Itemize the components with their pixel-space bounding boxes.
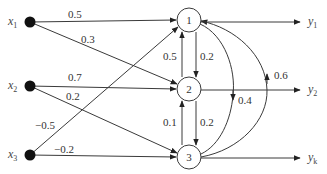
- edge-n1-n3: [200, 24, 233, 154]
- edge-x2-n2: [30, 86, 176, 89]
- output-label-y2: y2: [307, 82, 317, 98]
- weight-x1-n1: 0.5: [68, 8, 82, 20]
- edge-x3-n3: [30, 155, 176, 157]
- input-label-x2: x2: [7, 78, 17, 94]
- input-node-x2: [25, 81, 36, 92]
- neuron-2: 2: [177, 77, 201, 101]
- edge-x1-n1: [30, 20, 176, 22]
- weight-x2-n2: 0.7: [68, 71, 82, 83]
- output-label-yk: yk: [307, 150, 317, 166]
- weight-n3-n1: 0.6: [274, 69, 288, 81]
- neuron-3: 3: [177, 145, 201, 169]
- weight-n1-n2: 0.2: [200, 50, 214, 62]
- input-label-x1: x1: [7, 14, 17, 30]
- neuron-1: 1: [177, 8, 201, 32]
- weight-n2-n1: 0.5: [163, 50, 177, 62]
- input-label-x3: x3: [7, 147, 17, 163]
- neural-network-diagram: x1 x2 x3 1 2 3 y1 y2 yk 0.5 0.3 0.7 0.2 …: [0, 0, 327, 174]
- neuron-1-label: 1: [186, 14, 192, 26]
- edge-x3-n1: [30, 27, 178, 155]
- weight-n1-n3: 0.4: [238, 94, 252, 106]
- weight-n2-n3: 0.2: [200, 116, 214, 128]
- weight-n3-n2: 0.1: [163, 116, 177, 128]
- weight-x1-n2: 0.3: [81, 33, 95, 45]
- edge-n3-n1: [201, 21, 267, 157]
- input-node-x3: [25, 150, 36, 161]
- weight-x3-n3: −0.2: [54, 143, 74, 155]
- neuron-3-label: 3: [186, 151, 192, 163]
- input-node-x1: [25, 17, 36, 28]
- weight-x2-n3: 0.2: [66, 90, 80, 102]
- neuron-2-label: 2: [186, 83, 192, 95]
- output-label-y1: y1: [307, 14, 317, 30]
- weight-x3-n1: −0.5: [35, 119, 55, 131]
- edge-x1-n2: [30, 22, 177, 84]
